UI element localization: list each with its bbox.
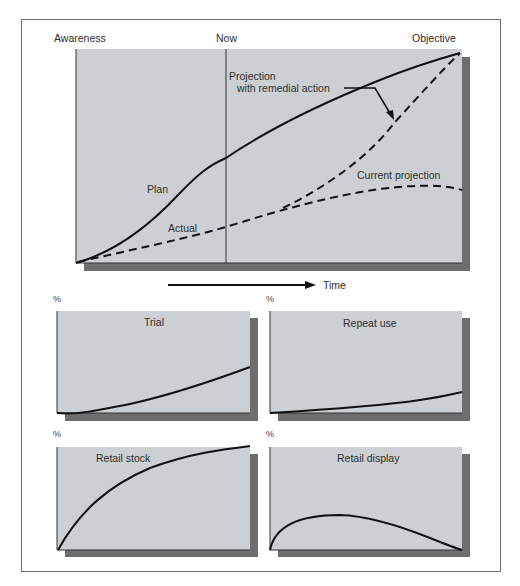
awareness-label: Awareness bbox=[54, 32, 106, 44]
current-projection-label: Current projection bbox=[357, 169, 440, 181]
retail-stock-panel bbox=[57, 447, 250, 550]
now-label: Now bbox=[216, 32, 237, 44]
plan-label: Plan bbox=[147, 183, 168, 195]
repeat-use-y-label: % bbox=[266, 294, 274, 304]
retail-stock-title: Retail stock bbox=[96, 452, 150, 464]
projection-label-line2: with remedial action bbox=[237, 82, 330, 94]
trial-y-label: % bbox=[53, 294, 61, 304]
actual-label: Actual bbox=[168, 222, 197, 234]
projection-label-line1: Projection bbox=[229, 70, 276, 82]
time-arrow-head-icon bbox=[305, 281, 316, 289]
time-axis-label: Time bbox=[323, 279, 346, 291]
retail-display-title: Retail display bbox=[337, 452, 399, 464]
objective-label: Objective bbox=[412, 32, 456, 44]
retail-display-y-label: % bbox=[266, 429, 274, 439]
retail-stock-y-label: % bbox=[53, 429, 61, 439]
repeat-use-title: Repeat use bbox=[343, 317, 397, 329]
trial-title: Trial bbox=[144, 316, 164, 328]
